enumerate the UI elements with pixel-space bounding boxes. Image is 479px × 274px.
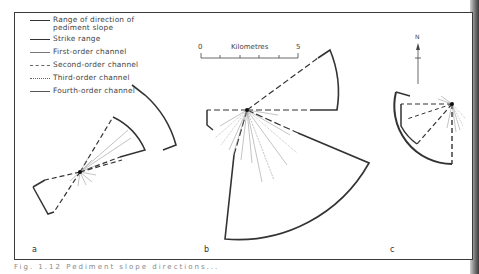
scale-title: Kilometres — [231, 43, 268, 51]
panel-label-b: b — [204, 245, 209, 254]
panel-a-diagram — [33, 85, 176, 214]
scale-bar — [201, 53, 298, 58]
panel-b-diagram — [207, 50, 369, 240]
north-label: N — [415, 33, 420, 40]
scale-start-label: 0 — [198, 43, 202, 51]
rose-diagrams — [0, 0, 479, 274]
panel-label-c: c — [390, 245, 394, 254]
north-arrow — [415, 43, 421, 84]
scale-end-label: 5 — [296, 43, 300, 51]
figure-caption-cut-off: Fig. 1.12 Pediment slope directions... — [14, 263, 219, 271]
panel-c-diagram — [394, 92, 465, 164]
panel-label-a: a — [32, 245, 37, 254]
